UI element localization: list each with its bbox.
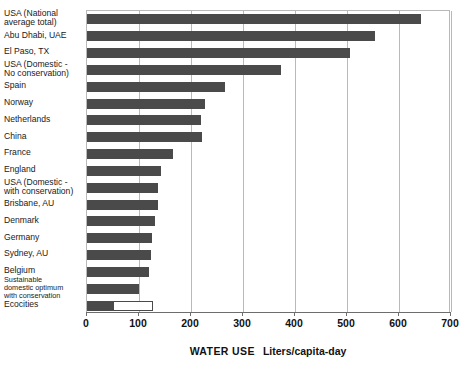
- bar-row: [87, 200, 451, 210]
- category-label: Netherlands: [4, 115, 86, 124]
- category-label-line: China: [4, 132, 86, 141]
- x-tick-label-0: 0: [83, 317, 89, 329]
- x-tick-300: [242, 312, 243, 316]
- bar: [87, 284, 139, 294]
- plot-area: [86, 10, 450, 313]
- category-label-line: Ecocities: [4, 300, 86, 309]
- x-tick-200: [190, 312, 191, 316]
- x-axis-line: [86, 312, 450, 313]
- category-label: Ecocities: [4, 300, 86, 309]
- x-tick-label-600: 600: [389, 317, 407, 329]
- bar: [87, 132, 202, 142]
- bar-row: [87, 82, 451, 92]
- bar: [87, 149, 173, 159]
- bar: [87, 65, 281, 75]
- category-label: France: [4, 148, 86, 157]
- x-axis-title-unit: Liters/capita-day: [263, 345, 346, 357]
- category-label: Spain: [4, 81, 86, 90]
- x-tick-400: [294, 312, 295, 316]
- category-label-line: Brisbane, AU: [4, 199, 86, 208]
- category-label: Brisbane, AU: [4, 199, 86, 208]
- x-tick-label-500: 500: [337, 317, 355, 329]
- bar: [87, 183, 158, 193]
- bar-row: [87, 284, 451, 294]
- category-label: USA (Domestic -No conservation): [4, 60, 86, 78]
- x-tick-500: [346, 312, 347, 316]
- bar-row: [87, 183, 451, 193]
- category-label-line: Germany: [4, 233, 86, 242]
- bar-row: [87, 267, 451, 277]
- category-label-line: Denmark: [4, 216, 86, 225]
- category-label-line: Spain: [4, 81, 86, 90]
- category-label: USA (Domestic -with conservation): [4, 178, 86, 196]
- x-tick-label-200: 200: [181, 317, 199, 329]
- category-label: Abu Dhabi, UAE: [4, 31, 86, 40]
- bar: [87, 115, 201, 125]
- bar-row: [87, 216, 451, 226]
- category-label-line: Netherlands: [4, 115, 86, 124]
- bar-row: [87, 65, 451, 75]
- bar: [87, 200, 158, 210]
- category-label-line: No conservation): [4, 69, 86, 78]
- bar: [87, 99, 205, 109]
- category-axis-labels: USA (Nationalaverage total)Abu Dhabi, UA…: [0, 8, 84, 313]
- category-label-line: England: [4, 165, 86, 174]
- category-label-line: Norway: [4, 98, 86, 107]
- bar: [87, 250, 151, 260]
- bar: [87, 267, 149, 277]
- bar-row: [87, 233, 451, 243]
- category-label-line: with conservation): [4, 187, 86, 196]
- bar-row: [87, 99, 451, 109]
- category-label: Germany: [4, 233, 86, 242]
- bar-row: [87, 250, 451, 260]
- bar-row: [87, 115, 451, 125]
- bar-row: [87, 166, 451, 176]
- x-tick-label-100: 100: [129, 317, 147, 329]
- bar: [87, 14, 421, 24]
- category-label: El Paso, TX: [4, 47, 86, 56]
- bar: [87, 48, 350, 58]
- x-axis-title-main: WATER USE: [190, 345, 255, 357]
- category-label: USA (Nationalaverage total): [4, 9, 86, 27]
- x-tick-label-300: 300: [233, 317, 251, 329]
- category-label: China: [4, 132, 86, 141]
- category-label: Norway: [4, 98, 86, 107]
- category-label-line: Sydney, AU: [4, 249, 86, 258]
- category-label-line: France: [4, 148, 86, 157]
- bar-row: [87, 48, 451, 58]
- x-tick-label-400: 400: [285, 317, 303, 329]
- bar-row: [87, 132, 451, 142]
- category-label: Denmark: [4, 216, 86, 225]
- bar-row: [87, 14, 451, 24]
- bar: [87, 216, 155, 226]
- x-tick-100: [138, 312, 139, 316]
- category-label: Sustainabledomestic optimumwith conserva…: [4, 276, 86, 300]
- bar-row: [87, 31, 451, 41]
- bar-row: [87, 149, 451, 159]
- bar-filled-segment: [87, 301, 114, 311]
- bar-row: [87, 301, 451, 311]
- category-label: Sydney, AU: [4, 249, 86, 258]
- category-label-line: El Paso, TX: [4, 47, 86, 56]
- water-use-bar-chart: USA (Nationalaverage total)Abu Dhabi, UA…: [0, 0, 463, 374]
- x-tick-0: [86, 312, 87, 316]
- x-tick-700: [450, 312, 451, 316]
- x-tick-label-700: 700: [441, 317, 459, 329]
- bar: [87, 31, 375, 41]
- bar: [87, 82, 225, 92]
- gridline-700: [451, 11, 452, 312]
- category-label: England: [4, 165, 86, 174]
- x-tick-600: [398, 312, 399, 316]
- category-label-line: Abu Dhabi, UAE: [4, 31, 86, 40]
- bar: [87, 166, 161, 176]
- category-label-line: average total): [4, 18, 86, 27]
- x-axis-title: WATER USELiters/capita-day: [86, 345, 450, 357]
- bar: [87, 233, 152, 243]
